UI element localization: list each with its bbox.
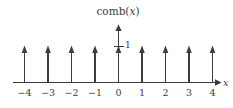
impulse-arrowhead-3 xyxy=(186,46,192,54)
impulse-arrowhead-1 xyxy=(139,46,145,54)
impulse-arrowhead-2 xyxy=(163,46,169,54)
impulse-arrowhead--2 xyxy=(69,46,75,54)
x-tick-label-1: 1 xyxy=(139,88,145,98)
x-tick-label--1: −1 xyxy=(88,88,102,98)
impulse-arrowhead--1 xyxy=(92,46,98,54)
x-tick-label-0: 0 xyxy=(115,88,121,98)
plot-title: comb(x) xyxy=(96,6,139,17)
y-unit-label: 1 xyxy=(125,41,131,50)
y-axis-arrowhead xyxy=(115,25,121,32)
x-tick-label-2: 2 xyxy=(162,88,168,98)
impulse-arrowhead-4 xyxy=(210,46,216,54)
impulse-arrowhead--3 xyxy=(45,46,51,54)
x-axis-arrowhead xyxy=(215,79,222,85)
comb-function-figure: comb(x) 1 x −4 −3 −2 −1 0 1 2 3 4 xyxy=(0,0,233,108)
x-tick-label--4: −4 xyxy=(17,88,31,98)
plot-title-suffix: ) xyxy=(135,5,139,17)
x-tick-label-4: 4 xyxy=(209,88,215,98)
impulse-arrowhead--4 xyxy=(22,46,28,54)
x-tick-label--3: −3 xyxy=(41,88,55,98)
x-tick-label--2: −2 xyxy=(64,88,78,98)
x-tick-label-3: 3 xyxy=(186,88,192,98)
x-axis-label: x xyxy=(223,78,228,88)
plot-title-prefix: comb( xyxy=(96,5,129,17)
